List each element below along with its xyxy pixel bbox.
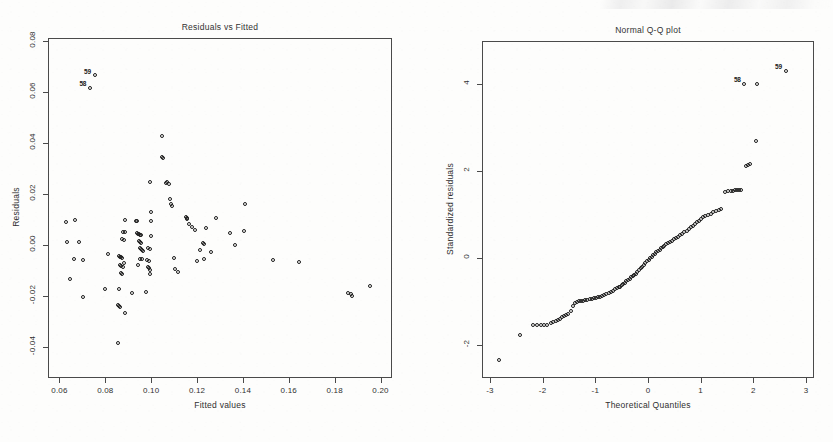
y-tick-label: -2 <box>462 332 471 356</box>
x-tick-label: 0.10 <box>131 386 171 395</box>
y-tick-mark <box>477 258 482 259</box>
x-axis-title-residuals-vs-fitted: Fitted values <box>100 400 340 410</box>
y-tick-label: 0.02 <box>28 180 37 204</box>
x-tick-label: 0.20 <box>361 386 401 395</box>
data-point <box>233 243 237 247</box>
data-point <box>72 257 76 261</box>
data-point <box>77 240 81 244</box>
x-tick-label: 1 <box>681 386 721 395</box>
outlier-label: 58 <box>734 76 741 83</box>
plot-frame-normal-qq-plot <box>482 41 814 378</box>
y-tick-mark <box>43 245 48 246</box>
data-point <box>204 226 208 230</box>
y-tick-label: 0.04 <box>28 129 37 153</box>
x-tick-label: 2 <box>733 386 773 395</box>
y-tick-mark <box>43 41 48 42</box>
y-tick-label: 2 <box>462 158 471 182</box>
y-axis-title-normal-qq-plot: Standardized residuals <box>445 149 455 269</box>
y-tick-mark <box>43 194 48 195</box>
data-point <box>148 272 152 276</box>
data-point <box>569 309 573 313</box>
x-tick-label: -1 <box>575 386 615 395</box>
y-axis-title-residuals-vs-fitted: Residuals <box>11 147 21 267</box>
outlier-label: 59 <box>775 63 782 70</box>
x-tick-label: 0.06 <box>39 386 79 395</box>
data-point <box>147 259 151 263</box>
x-tick-mark <box>59 378 60 383</box>
y-tick-label: 0.06 <box>28 78 37 102</box>
y-tick-mark <box>43 347 48 348</box>
plot-title-residuals-vs-fitted: Residuals vs Fitted <box>100 22 340 32</box>
x-tick-label: 0.18 <box>315 386 355 395</box>
data-point <box>148 247 152 251</box>
x-tick-mark <box>543 378 544 383</box>
data-point <box>65 240 69 244</box>
y-tick-label: -0.04 <box>28 334 37 358</box>
outlier-label: 58 <box>79 80 86 87</box>
x-tick-mark <box>381 378 382 383</box>
x-tick-mark <box>289 378 290 383</box>
data-point <box>170 204 174 208</box>
x-tick-mark <box>105 378 106 383</box>
x-tick-mark <box>243 378 244 383</box>
x-tick-mark <box>490 378 491 383</box>
plot-frame-residuals-vs-fitted <box>48 38 392 378</box>
data-point <box>167 182 171 186</box>
y-tick-mark <box>477 84 482 85</box>
x-tick-mark <box>753 378 754 383</box>
y-tick-label: 0 <box>462 245 471 269</box>
x-tick-label: 0.14 <box>223 386 263 395</box>
x-tick-label: 0 <box>628 386 668 395</box>
data-point <box>168 197 172 201</box>
x-tick-label: -2 <box>523 386 563 395</box>
data-point <box>139 241 143 245</box>
data-point <box>784 69 788 73</box>
data-point <box>228 231 232 235</box>
data-point <box>117 287 121 291</box>
data-point <box>531 323 535 327</box>
data-point <box>202 242 206 246</box>
x-tick-mark <box>151 378 152 383</box>
data-point <box>144 290 148 294</box>
data-point <box>122 238 126 242</box>
plot-title-normal-qq-plot: Normal Q-Q plot <box>528 25 768 35</box>
y-tick-label: -0.02 <box>28 283 37 307</box>
x-tick-label: -3 <box>470 386 510 395</box>
y-tick-label: 4 <box>462 71 471 95</box>
x-tick-mark <box>648 378 649 383</box>
scan-artifact-top <box>600 0 833 9</box>
x-tick-mark <box>701 378 702 383</box>
y-tick-label: 0.08 <box>28 27 37 51</box>
data-point <box>149 210 153 214</box>
data-point <box>754 139 758 143</box>
y-tick-mark <box>43 92 48 93</box>
data-point <box>64 220 68 224</box>
data-point <box>121 265 125 269</box>
x-tick-mark <box>595 378 596 383</box>
data-point <box>106 252 110 256</box>
y-tick-mark <box>477 171 482 172</box>
y-tick-mark <box>477 345 482 346</box>
x-axis-title-normal-qq-plot: Theoretical Quantiles <box>528 400 768 410</box>
data-point <box>140 257 144 261</box>
y-tick-mark <box>43 296 48 297</box>
data-point <box>755 82 759 86</box>
data-point <box>172 256 176 260</box>
x-tick-label: 0.16 <box>269 386 309 395</box>
x-tick-label: 0.12 <box>177 386 217 395</box>
x-tick-label: 0.08 <box>85 386 125 395</box>
outlier-label: 59 <box>84 68 91 75</box>
x-tick-mark <box>335 378 336 383</box>
data-point <box>176 270 180 274</box>
x-tick-mark <box>806 378 807 383</box>
data-point <box>739 188 743 192</box>
data-point <box>497 358 501 362</box>
data-point <box>136 263 140 267</box>
y-tick-label: 0.00 <box>28 232 37 256</box>
data-point <box>88 86 92 90</box>
x-tick-mark <box>197 378 198 383</box>
data-point <box>368 284 372 288</box>
y-tick-mark <box>43 143 48 144</box>
data-point <box>214 216 218 220</box>
data-point <box>160 134 164 138</box>
